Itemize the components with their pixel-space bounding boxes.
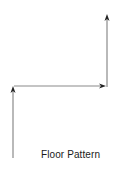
diagram-caption: Floor Pattern xyxy=(41,149,100,160)
floor-pattern-diagram: Floor Pattern xyxy=(0,0,118,171)
path-drawing xyxy=(0,0,118,171)
